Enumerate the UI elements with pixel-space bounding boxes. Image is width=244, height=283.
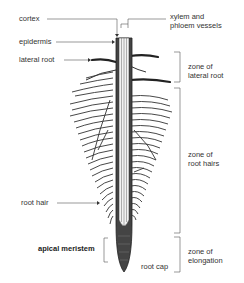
label-root-hair: root hair (21, 199, 49, 208)
label-zone-elongation: zone of elongation (188, 248, 223, 265)
label-cortex: cortex (19, 15, 39, 24)
root-hairs-left (70, 72, 113, 224)
label-zone-lateral-root: zone of lateral root (188, 63, 223, 80)
label-lateral-root: lateral root (19, 56, 54, 65)
label-xylem-phloem: xylem and phloem vessels (170, 13, 222, 30)
label-apical-meristem: apical meristem (38, 245, 95, 254)
label-zone-root-hairs: zone of root hairs (188, 151, 219, 168)
root-hairs-right (131, 96, 172, 221)
label-epidermis: epidermis (19, 38, 52, 47)
label-root-cap: root cap (141, 263, 168, 272)
